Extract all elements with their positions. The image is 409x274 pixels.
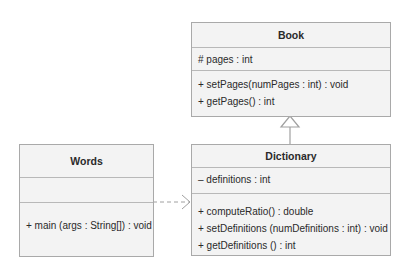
method: + getPages() : int	[198, 93, 390, 110]
class-words[interactable]: Words + main (args : String[]) : void	[19, 144, 154, 257]
class-dictionary-methods: + computeRatio() : double + setDefinitio…	[192, 194, 390, 254]
attribute: – definitions : int	[198, 171, 390, 188]
class-words-methods: + main (args : String[]) : void	[20, 203, 153, 234]
method: + main (args : String[]) : void	[26, 217, 153, 234]
class-book-attributes: # pages : int	[192, 48, 390, 71]
class-book[interactable]: Book # pages : int + setPages(numPages :…	[191, 22, 391, 117]
method: + setDefinitions (numDefinitions : int) …	[198, 220, 390, 237]
class-dictionary-name: Dictionary	[192, 145, 390, 168]
generalization-arrow-icon	[281, 116, 299, 127]
class-dictionary-attributes: – definitions : int	[192, 168, 390, 194]
method: + computeRatio() : double	[198, 203, 390, 220]
class-dictionary[interactable]: Dictionary – definitions : int + compute…	[191, 144, 391, 256]
method: + setPages(numPages : int) : void	[198, 76, 390, 93]
method: + getDefinitions () : int	[198, 237, 390, 254]
attribute: # pages : int	[198, 51, 390, 68]
class-book-name: Book	[192, 23, 390, 48]
class-words-name: Words	[20, 145, 153, 178]
class-words-attributes	[20, 178, 153, 203]
class-book-methods: + setPages(numPages : int) : void + getP…	[192, 71, 390, 110]
